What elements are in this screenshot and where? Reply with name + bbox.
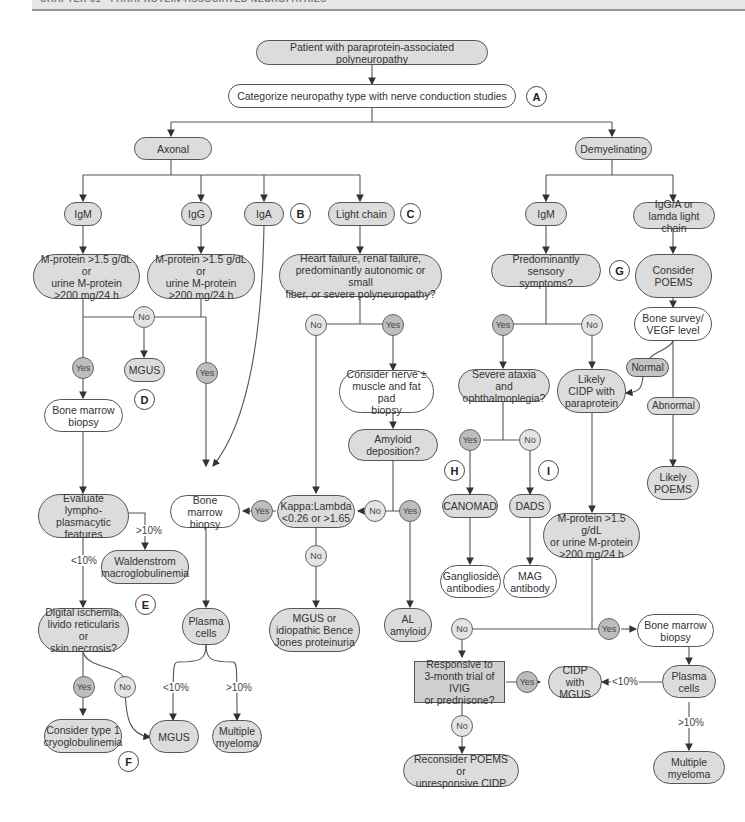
node-bone-marrow-left: Bone marrow biopsy	[44, 399, 123, 432]
node-mprotein-igm: M-protein >1.5 g/dL or urine M-protein >…	[33, 254, 140, 299]
decision-yes-mprotein-dem: Yes	[598, 618, 620, 640]
node-kappa-lambda: Kappa:Lambda <0.26 or >1.65	[277, 495, 355, 528]
decision-no-responsive: No	[451, 715, 473, 737]
node-reconsider-poems: Reconsider POEMS or unresponsive CIDP	[403, 754, 519, 787]
node-light-chain: Light chain	[328, 202, 395, 226]
node-cidp-mgus: CIDP with MGUS	[548, 666, 602, 698]
decision-yes-kappa: Yes	[251, 500, 273, 522]
decision-no-mprotein-dem: No	[451, 618, 473, 640]
node-start: Patient with paraprotein-associated poly…	[256, 40, 488, 65]
threshold-lt10-cidp: <10%	[611, 676, 639, 687]
note-letter-e: E	[135, 594, 156, 615]
node-multiple-myeloma-right: Multiple myeloma	[653, 751, 725, 784]
note-letter-i: I	[538, 460, 559, 481]
node-al-amyloid: AL amyloid	[384, 608, 432, 642]
node-canomad: CANOMAD	[442, 494, 498, 518]
node-iga-axonal: IgA	[244, 202, 284, 226]
decision-no-heart: No	[305, 314, 327, 336]
note-letter-d: D	[134, 389, 155, 410]
node-axonal: Axonal	[134, 137, 212, 160]
decision-no-sensory: No	[581, 314, 603, 336]
decision-no-ataxia: No	[519, 429, 541, 451]
node-likely-poems: Likely POEMS	[647, 466, 699, 500]
node-multiple-myeloma-mid: Multiple myeloma	[212, 720, 262, 753]
node-waldenstrom: Waldenstrom macroglobulinemia	[101, 550, 189, 584]
node-demyelinating: Demyelinating	[575, 137, 652, 160]
decision-no-mprotein: No	[133, 306, 155, 328]
node-evaluate-lympho: Evaluate lympho- plasmacytic features	[38, 494, 129, 538]
node-bone-marrow-right: Bone marrow biopsy	[637, 614, 714, 647]
node-mprotein-demyelinating: M-protein >1.5 g/dL or urine M-protein >…	[543, 513, 640, 558]
node-bone-survey: Bone survey/ VEGF level	[634, 307, 712, 341]
label-normal: Normal	[626, 358, 669, 377]
decision-yes-igm: Yes	[72, 357, 94, 379]
note-letter-c: C	[400, 203, 421, 224]
node-mgus-bottom: MGUS	[149, 720, 199, 753]
node-dads: DADS	[509, 494, 551, 518]
node-mprotein-igg: M-protein >1.5 g/dL or urine M-protein >…	[147, 254, 255, 299]
node-plasma-cells-right: Plasma cells	[662, 665, 716, 698]
decision-no-kappa: No	[305, 545, 327, 567]
node-cryoglobulinemia: Consider type 1 cryoglobulinemia	[44, 719, 122, 753]
node-mgus-d: MGUS	[124, 358, 165, 382]
decision-no-amyloid: No	[364, 500, 386, 522]
node-severe-ataxia: Severe ataxia and ophthalmoplegia?	[458, 369, 550, 402]
node-mag-antibody: MAG antibody	[503, 565, 557, 598]
node-heart-failure: Heart failure, renal failure, predominan…	[279, 254, 442, 297]
node-plasma-cells-mid: Plasma cells	[182, 608, 230, 645]
decision-no-digital: No	[114, 676, 136, 698]
node-igm-demyelinating: IgM	[525, 202, 567, 226]
node-igm-axonal: IgM	[64, 202, 102, 226]
node-sensory-symptoms: Predominantly sensory symptoms?	[491, 254, 601, 287]
threshold-lt10-digital: <10%	[70, 555, 98, 566]
label-abnormal: Abnormal	[647, 397, 700, 415]
threshold-gt10-myeloma: >10%	[225, 682, 253, 693]
decision-yes-amyloid: Yes	[399, 500, 421, 522]
decision-yes-heart: Yes	[382, 314, 404, 336]
node-ganglioside-antibodies: Ganglioside antibodies	[440, 565, 501, 598]
threshold-lt10-mgus: <10%	[162, 682, 190, 693]
node-responsive-ivig: Responsive to 3-month trial of IVIG or p…	[414, 661, 505, 703]
node-consider-poems: Consider POEMS	[635, 254, 712, 298]
node-igga-lambda: IgG/A or lamda light chain	[633, 202, 715, 229]
edge-normal-cidp	[626, 376, 643, 393]
note-letter-b: B	[290, 203, 311, 224]
node-digital-ischemia: Digital ischemia, livido reticularis or …	[38, 608, 129, 652]
decision-yes-ataxia: Yes	[459, 429, 481, 451]
threshold-gt10-myeloma-right: >10%	[677, 717, 705, 728]
note-letter-h: H	[444, 460, 465, 481]
node-categorize: Categorize neuropathy type with nerve co…	[228, 84, 516, 108]
node-mgus-bence-jones: MGUS or idiopathic Bence Jones proteinur…	[269, 608, 360, 652]
decision-yes-sensory: Yes	[492, 314, 514, 336]
threshold-gt10-walden: >10%	[135, 525, 163, 536]
node-bone-marrow-mid: Bone marrow biopsy	[170, 495, 240, 528]
note-letter-g: G	[609, 260, 630, 281]
note-letter-f: F	[118, 751, 139, 772]
decision-yes-responsive: Yes	[516, 671, 538, 693]
decision-yes-digital: Yes	[73, 676, 95, 698]
node-amyloid: Amyloid deposition?	[348, 429, 438, 461]
decision-yes-igg: Yes	[196, 362, 218, 384]
node-igg-axonal: IgG	[181, 202, 212, 226]
node-consider-nerve: Consider nerve ± muscle and fat pad biop…	[339, 370, 434, 413]
note-letter-a: A	[526, 86, 547, 107]
node-likely-cidp: Likely CIDP with paraprotein	[557, 369, 626, 413]
